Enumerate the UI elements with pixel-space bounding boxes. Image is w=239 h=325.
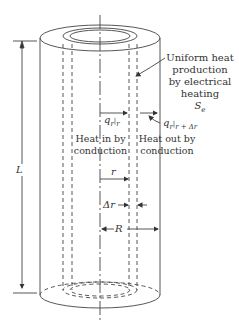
source-term-symbol: Se (160, 100, 239, 116)
flux-out-label: qr|r + Δr (163, 117, 197, 133)
cylindrical-shell-diagram: Uniform heat production by electrical he… (0, 0, 239, 325)
heat-out-label: Heat out byconduction (137, 133, 197, 157)
radius-R-label: R (115, 223, 123, 235)
heat-in-label: Heat in byconduction (72, 133, 129, 157)
delta-r-label: Δr (103, 199, 115, 211)
length-label: L (16, 164, 23, 176)
flux-in-label: qr|r (104, 114, 119, 130)
cylinder-drawing (0, 0, 239, 325)
radius-r-label: r (111, 166, 116, 178)
heat-production-annotation: Uniform heat production by electrical he… (160, 52, 239, 116)
